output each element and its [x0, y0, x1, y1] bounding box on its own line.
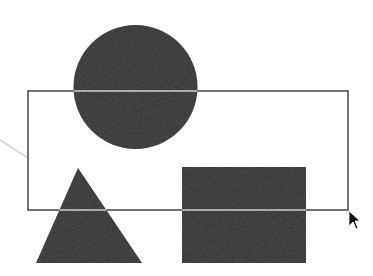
- diagram-canvas: [0, 0, 373, 276]
- rectangle-shape[interactable]: [182, 167, 306, 263]
- circle-shape[interactable]: [74, 25, 198, 149]
